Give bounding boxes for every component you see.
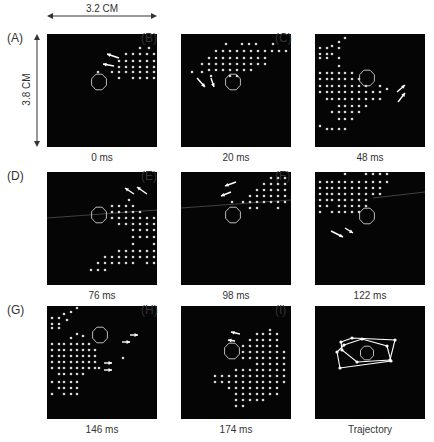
activity-dot	[319, 187, 322, 190]
activity-dot	[269, 333, 272, 336]
activity-dot	[351, 193, 354, 196]
activity-dot	[132, 71, 135, 74]
activity-dot	[118, 205, 121, 208]
activity-dot	[125, 217, 128, 220]
panel-letter-e: (E)	[141, 169, 157, 183]
activity-dot	[256, 207, 259, 210]
panel-f-plot	[315, 172, 425, 285]
activity-dot	[269, 345, 272, 348]
activity-dot	[249, 345, 252, 348]
activity-dot	[365, 187, 368, 190]
activity-dot	[118, 217, 121, 220]
scale-height-label: 3.8 CM	[21, 70, 32, 110]
activity-dot	[88, 355, 91, 358]
activity-dot	[70, 343, 73, 346]
activity-dot	[70, 367, 73, 370]
activity-dot	[125, 211, 128, 214]
activity-dot	[82, 373, 85, 376]
panel-caption-f: 122 ms	[315, 290, 425, 301]
activity-dot	[372, 193, 375, 196]
activity-dot	[319, 91, 322, 94]
activity-dot	[51, 323, 54, 326]
activity-dot	[256, 375, 259, 378]
activity-dot	[242, 201, 245, 204]
activity-dot	[386, 173, 389, 176]
panel-letter-a: (A)	[7, 31, 23, 45]
activity-dot	[111, 262, 114, 265]
activity-dot	[111, 217, 114, 220]
activity-dot	[111, 205, 114, 208]
activity-dot	[82, 343, 85, 346]
activity-dot	[284, 189, 287, 192]
activity-dot	[344, 85, 347, 88]
activity-dot	[118, 262, 121, 265]
activity-dot	[215, 50, 218, 53]
activity-dot	[283, 363, 286, 366]
activity-dot	[271, 50, 274, 53]
activity-dot	[118, 250, 121, 253]
activity-dot	[262, 399, 265, 402]
direction-arrow-icon	[109, 368, 113, 372]
activity-dot	[51, 367, 54, 370]
activity-dot	[132, 60, 135, 63]
activity-dot	[331, 45, 334, 48]
activity-dot	[262, 351, 265, 354]
activity-dot	[351, 98, 354, 101]
activity-dot	[283, 375, 286, 378]
activity-dot	[249, 387, 252, 390]
activity-dot	[76, 393, 79, 396]
trajectory-point	[342, 343, 345, 346]
panel-letter-d: (D)	[7, 169, 24, 183]
direction-arrow-icon	[109, 361, 113, 365]
activity-dot	[125, 256, 128, 259]
activity-dot	[331, 53, 334, 56]
activity-dot	[139, 71, 142, 74]
activity-dot	[372, 187, 375, 190]
activity-dot	[379, 98, 382, 101]
activity-dot	[82, 355, 85, 358]
panel-letter-b: (B)	[141, 31, 157, 45]
activity-dot	[284, 201, 287, 204]
activity-dot	[51, 343, 54, 346]
activity-dot	[372, 181, 375, 184]
activity-dot	[358, 91, 361, 94]
activity-dot	[70, 361, 73, 364]
octagon-outline-icon	[361, 346, 374, 360]
activity-dot	[277, 189, 280, 192]
activity-dot	[97, 269, 100, 272]
activity-dot	[262, 393, 265, 396]
activity-dot	[326, 98, 329, 101]
panel-e-plot	[181, 172, 291, 285]
panel-c-plot	[315, 34, 425, 147]
panel-i-plot	[315, 306, 425, 419]
panel-caption-e: 98 ms	[181, 290, 291, 301]
activity-dot	[331, 211, 334, 214]
activity-dot	[319, 47, 322, 50]
activity-dot	[277, 183, 280, 186]
activity-dot	[276, 369, 279, 372]
activity-dot	[132, 256, 135, 259]
panel-letter-g: (G)	[7, 303, 24, 317]
activity-dot	[331, 85, 334, 88]
activity-dot	[51, 355, 54, 358]
activity-dot	[284, 195, 287, 198]
activity-dot	[94, 349, 97, 352]
activity-dot	[76, 367, 79, 370]
activity-dot	[63, 343, 66, 346]
activity-dot	[249, 201, 252, 204]
activity-dot	[351, 91, 354, 94]
activity-dot	[241, 43, 244, 46]
activity-dot	[338, 105, 341, 108]
activity-dot	[51, 317, 54, 320]
activity-dot	[344, 118, 347, 121]
panel-h	[181, 306, 291, 419]
activity-dot	[76, 349, 79, 352]
activity-dot	[215, 57, 218, 60]
activity-dot	[82, 349, 85, 352]
activity-dot	[94, 355, 97, 358]
activity-dot	[51, 349, 54, 352]
activity-dot	[139, 66, 142, 69]
activity-dot	[379, 193, 382, 196]
activity-dot	[191, 71, 194, 74]
activity-dot	[249, 381, 252, 384]
